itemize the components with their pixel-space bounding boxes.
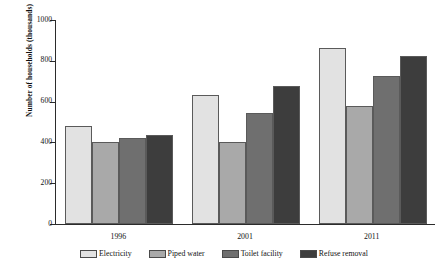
x-axis-label-2011: 2011 <box>364 232 379 241</box>
x-axis-label-2001: 2001 <box>237 232 253 241</box>
legend-label-toilet-facility: Toilet facility <box>241 250 283 258</box>
bar-2011-toilet-facility <box>373 76 400 224</box>
legend-item-refuse-removal[interactable]: Refuse removal <box>300 250 368 258</box>
bar-2011-electricity <box>319 48 346 224</box>
bar-2001-toilet-facility <box>246 113 273 224</box>
legend-label-piped-water: Piped water <box>168 250 205 258</box>
bar-1996-piped-water <box>92 142 119 224</box>
y-tick-label: 1000 <box>37 15 52 24</box>
y-tick-label: 400 <box>41 137 52 146</box>
bar-2001-electricity <box>192 95 219 224</box>
legend-swatch-piped-water <box>149 250 166 258</box>
bar-2001-refuse-removal <box>273 86 300 224</box>
legend-swatch-refuse-removal <box>300 250 317 258</box>
legend-swatch-toilet-facility <box>222 250 239 258</box>
bar-chart: Number of households (thousands) 0200400… <box>0 0 448 277</box>
legend: ElectricityPiped waterToilet facilityRef… <box>0 250 448 258</box>
legend-item-toilet-facility[interactable]: Toilet facility <box>222 250 283 258</box>
x-axis-label-1996: 1996 <box>111 232 127 241</box>
y-axis-title: Number of households (thousands) <box>25 0 34 146</box>
legend-item-electricity[interactable]: Electricity <box>80 250 131 258</box>
bar-1996-toilet-facility <box>119 138 146 224</box>
bars-layer <box>56 20 435 224</box>
y-tick-label: 0 <box>48 219 52 228</box>
bar-2001-piped-water <box>219 142 246 224</box>
bar-1996-refuse-removal <box>146 135 173 224</box>
legend-item-piped-water[interactable]: Piped water <box>149 250 205 258</box>
plot-area: 02004006008001000 199620012011 <box>55 20 435 224</box>
bar-1996-electricity <box>65 126 92 224</box>
legend-swatch-electricity <box>80 250 97 258</box>
y-tick-label: 800 <box>41 55 52 64</box>
legend-label-refuse-removal: Refuse removal <box>319 250 368 258</box>
x-axis-line <box>55 224 435 225</box>
bar-2011-piped-water <box>346 106 373 224</box>
y-tick-label: 200 <box>41 178 52 187</box>
y-tick-label: 600 <box>41 96 52 105</box>
bar-2011-refuse-removal <box>400 56 427 224</box>
legend-label-electricity: Electricity <box>99 250 131 258</box>
